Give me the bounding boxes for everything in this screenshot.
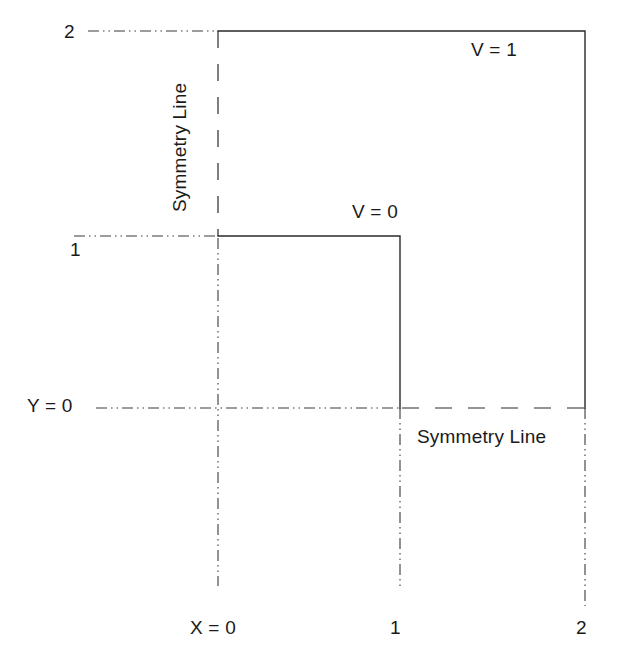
symmetry-line-vertical-label: Symmetry Line (170, 83, 189, 212)
gridline-group (74, 31, 585, 606)
outer-boundary-v1 (218, 31, 585, 408)
y-axis-origin-label: Y = 0 (27, 396, 73, 415)
inner-boundary-v0 (218, 236, 400, 408)
diagram-svg (0, 0, 620, 665)
diagram-canvas: 2 1 Y = 0 X = 0 1 2 V = 1 V = 0 Symmetry… (0, 0, 620, 665)
outer-boundary-label: V = 1 (471, 40, 517, 59)
x-axis-tick-label-1: 1 (390, 618, 401, 637)
x-axis-origin-label: X = 0 (190, 618, 236, 637)
symmetry-line-group (218, 31, 585, 408)
inner-boundary-label: V = 0 (352, 202, 398, 221)
y-axis-tick-label-1: 1 (70, 240, 81, 259)
symmetry-line-horizontal-label: Symmetry Line (417, 427, 546, 446)
x-axis-tick-label-2: 2 (576, 618, 587, 637)
y-axis-tick-label-2: 2 (64, 22, 75, 41)
